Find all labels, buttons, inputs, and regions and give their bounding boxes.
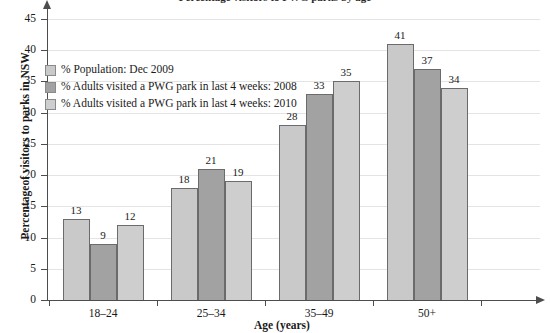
y-axis-tick [41, 175, 47, 176]
x-axis-arrow-icon [536, 296, 545, 304]
bar-value-label: 21 [192, 155, 231, 166]
chart-legend: % Population: Dec 2009 % Adults visited … [45, 62, 305, 113]
bar-value-label: 34 [435, 74, 474, 85]
x-axis-line [47, 300, 537, 301]
bar-value-label: 12 [111, 211, 150, 222]
y-axis-line [47, 8, 48, 300]
bar-value-label: 35 [327, 67, 366, 78]
x-axis-category-label: 50+ [377, 308, 477, 320]
y-axis-arrow-icon [43, 0, 51, 9]
y-axis-tick [41, 269, 47, 270]
legend-item: % Adults visited a PWG park in last 4 we… [45, 79, 305, 95]
legend-item: % Adults visited a PWG park in last 4 we… [45, 96, 305, 112]
bar-value-label: 19 [219, 167, 258, 178]
bar [306, 94, 333, 301]
bar-value-label: 37 [408, 55, 447, 66]
y-axis-tick [41, 206, 47, 207]
legend-label: % Population: Dec 2009 [61, 64, 174, 76]
bar [90, 244, 117, 301]
y-axis-tick [41, 19, 47, 20]
bar [171, 188, 198, 301]
gridline [47, 19, 540, 20]
y-axis-tick-label: 0 [10, 294, 36, 306]
x-axis-category-label: 35–49 [269, 308, 369, 320]
y-axis-tick [41, 144, 47, 145]
x-axis-tick [49, 300, 50, 306]
bar [225, 181, 252, 301]
bar [198, 169, 225, 301]
bar [333, 81, 360, 301]
bar-chart: Percentage visitors to PWG parks by age … [0, 0, 550, 333]
legend-swatch-icon [45, 82, 56, 93]
x-axis-tick [481, 300, 482, 306]
x-axis-category-label: 18–24 [53, 308, 153, 320]
x-axis-title: Age (years) [47, 320, 517, 332]
legend-label: % Adults visited a PWG park in last 4 we… [61, 98, 297, 110]
gridline [47, 50, 540, 51]
x-axis-tick [373, 300, 374, 306]
plot-area: 13912182119283335413734 [47, 11, 540, 300]
bar [279, 125, 306, 301]
legend-swatch-icon [45, 65, 56, 76]
y-axis-tick [41, 300, 47, 301]
legend-item: % Population: Dec 2009 [45, 62, 305, 78]
bar [414, 69, 441, 301]
legend-label: % Adults visited a PWG park in last 4 we… [61, 81, 297, 93]
bar-value-label: 41 [381, 30, 420, 41]
x-axis-tick [157, 300, 158, 306]
legend-swatch-icon [45, 99, 56, 110]
x-axis-tick [265, 300, 266, 306]
y-axis-title: Percentageof visitors to parks in NSW [19, 21, 31, 271]
y-axis-tick [41, 50, 47, 51]
bar-value-label: 13 [57, 205, 96, 216]
bar [117, 225, 144, 301]
bar [387, 44, 414, 301]
chart-title: Percentage visitors to PWG parks by age [0, 0, 550, 3]
x-axis-category-label: 25–34 [161, 308, 261, 320]
bar [441, 88, 468, 301]
y-axis-tick [41, 238, 47, 239]
